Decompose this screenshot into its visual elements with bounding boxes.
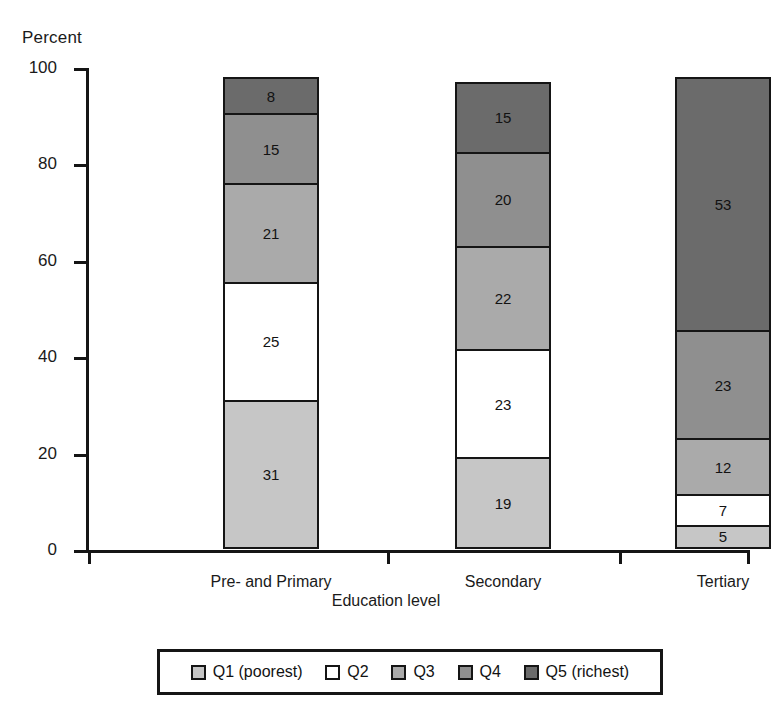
y-tick-label: 60 (38, 250, 57, 270)
bar-segment-value: 23 (495, 397, 512, 412)
bar-segment[interactable]: 25 (223, 282, 319, 403)
legend-item[interactable]: Q4 (458, 663, 501, 681)
bar-segment[interactable]: 23 (675, 330, 771, 441)
legend-swatch-icon (391, 665, 406, 680)
bar-segment-value: 20 (495, 192, 512, 207)
legend-item[interactable]: Q3 (391, 663, 434, 681)
legend-label: Q3 (413, 663, 434, 681)
bar-segment[interactable]: 8 (223, 77, 319, 116)
bar-segment-value: 5 (719, 529, 727, 544)
y-tick-mark: 100 (74, 68, 87, 71)
y-tick-mark: 60 (74, 261, 87, 264)
x-category-label: Secondary (465, 573, 542, 591)
y-axis-line (86, 68, 89, 553)
legend-swatch-icon (458, 665, 473, 680)
y-tick-mark: 20 (74, 454, 87, 457)
bar-segment-value: 25 (263, 334, 280, 349)
bar-secondary[interactable]: 1520222319 (455, 82, 551, 549)
bar-segment-value: 31 (263, 467, 280, 482)
bar-segment[interactable]: 5 (675, 525, 771, 549)
legend-swatch-icon (524, 665, 539, 680)
bar-tertiary[interactable]: 53231275 (675, 77, 771, 549)
legend-item[interactable]: Q1 (poorest) (191, 663, 303, 681)
x-tick-mark (88, 550, 91, 564)
legend-swatch-icon (325, 665, 340, 680)
plot-area: 020406080100 815212531152022231953231275… (86, 68, 750, 552)
y-tick-mark: 80 (74, 164, 87, 167)
y-tick-mark: 0 (74, 550, 87, 553)
x-tick-mark (619, 550, 622, 564)
y-axis-title: Percent (22, 28, 82, 48)
x-tick-mark (387, 550, 390, 564)
stacked-bar-chart: Percent 020406080100 8152125311520222319… (0, 0, 772, 717)
bar-segment-value: 15 (263, 142, 280, 157)
x-axis-title: Education level (0, 592, 772, 610)
bar-segment-value: 21 (263, 226, 280, 241)
bar-segment-value: 12 (715, 460, 732, 475)
bar-segment[interactable]: 22 (455, 246, 551, 352)
y-tick-label: 100 (29, 58, 57, 78)
x-tick-mark (747, 550, 750, 564)
bar-segment[interactable]: 12 (675, 438, 771, 496)
bar-segment[interactable]: 19 (455, 457, 551, 549)
bar-segment[interactable]: 31 (223, 400, 319, 549)
y-tick-label: 0 (48, 540, 57, 560)
bar-segment-value: 22 (495, 291, 512, 306)
bar-segment[interactable]: 20 (455, 152, 551, 248)
x-category-label: Pre- and Primary (211, 573, 332, 591)
bar-segment[interactable]: 53 (675, 77, 771, 332)
legend-label: Q4 (480, 663, 501, 681)
legend-label: Q1 (poorest) (213, 663, 303, 681)
bar-segment[interactable]: 15 (223, 113, 319, 185)
legend-swatch-icon (191, 665, 206, 680)
y-tick-label: 80 (38, 154, 57, 174)
bar-segment-value: 15 (495, 110, 512, 125)
y-tick-label: 20 (38, 443, 57, 463)
bar-segment-value: 19 (495, 496, 512, 511)
bar-pre-and-primary[interactable]: 815212531 (223, 77, 319, 549)
bar-segment-value: 53 (715, 197, 732, 212)
bar-segment[interactable]: 23 (455, 349, 551, 460)
y-tick-label: 40 (38, 347, 57, 367)
bar-segment[interactable]: 21 (223, 183, 319, 284)
legend-item[interactable]: Q5 (richest) (524, 663, 630, 681)
y-tick-mark: 40 (74, 357, 87, 360)
x-axis-line (86, 550, 750, 553)
bar-segment[interactable]: 15 (455, 82, 551, 154)
legend: Q1 (poorest)Q2Q3Q4Q5 (richest) (157, 649, 663, 695)
legend-item[interactable]: Q2 (325, 663, 368, 681)
bar-segment[interactable]: 7 (675, 494, 771, 528)
bar-segment-value: 8 (267, 89, 275, 104)
bar-segment-value: 23 (715, 378, 732, 393)
legend-label: Q2 (347, 663, 368, 681)
x-category-label: Tertiary (697, 573, 749, 591)
bar-segment-value: 7 (719, 503, 727, 518)
legend-label: Q5 (richest) (546, 663, 630, 681)
